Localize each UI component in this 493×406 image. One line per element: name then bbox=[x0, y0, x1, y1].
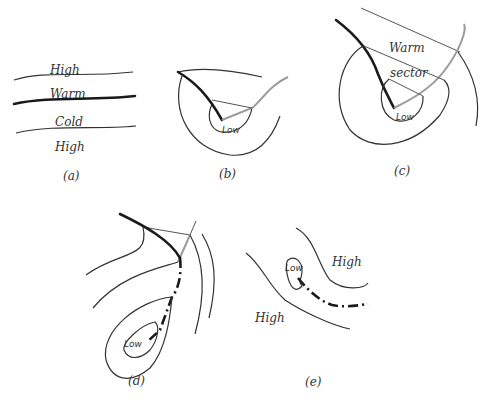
label-high: High bbox=[54, 140, 85, 154]
isobar-line bbox=[190, 235, 202, 334]
caption-a: (a) bbox=[63, 169, 80, 183]
isobar-line bbox=[179, 76, 280, 155]
label-low: Low bbox=[222, 125, 241, 135]
label-low: Low bbox=[124, 339, 143, 349]
panel-e: Low High High (e) bbox=[246, 228, 368, 389]
isobar-line bbox=[86, 227, 144, 275]
isobar-line bbox=[178, 69, 262, 77]
isobar-line bbox=[93, 262, 178, 308]
warm-sector-boundary bbox=[143, 221, 196, 235]
isobar-line bbox=[105, 297, 172, 378]
label-high: High bbox=[254, 311, 285, 325]
label-warm: Warm bbox=[389, 41, 425, 55]
cyclone-development-diagram: High Warm Cold High (a) Low (b) Warm sec… bbox=[0, 0, 493, 406]
isobar-line bbox=[339, 46, 449, 144]
label-high: High bbox=[331, 255, 362, 269]
label-sector: sector bbox=[390, 66, 429, 80]
label-low: Low bbox=[285, 263, 304, 273]
panel-c: Warm sector Low (c) bbox=[336, 8, 478, 178]
isobar-line bbox=[202, 234, 214, 318]
cold-front-line bbox=[178, 72, 222, 120]
cold-front-line bbox=[120, 214, 180, 258]
cold-front-line bbox=[336, 20, 394, 108]
caption-d: (d) bbox=[128, 374, 145, 388]
caption-b: (b) bbox=[219, 167, 236, 181]
caption-c: (c) bbox=[394, 164, 410, 178]
label-cold: Cold bbox=[55, 115, 83, 129]
label-high: High bbox=[49, 63, 80, 77]
warm-sector-boundary bbox=[212, 100, 252, 108]
panel-d: Low (d) bbox=[86, 214, 214, 388]
warm-sector-boundary bbox=[389, 79, 423, 96]
label-low: Low bbox=[396, 112, 415, 122]
warm-front-line bbox=[222, 77, 288, 120]
isobar-line bbox=[458, 52, 478, 126]
panel-b: Low (b) bbox=[178, 69, 288, 181]
caption-e: (e) bbox=[305, 375, 322, 389]
label-warm: Warm bbox=[50, 87, 86, 101]
panel-a: High Warm Cold High (a) bbox=[14, 63, 136, 183]
